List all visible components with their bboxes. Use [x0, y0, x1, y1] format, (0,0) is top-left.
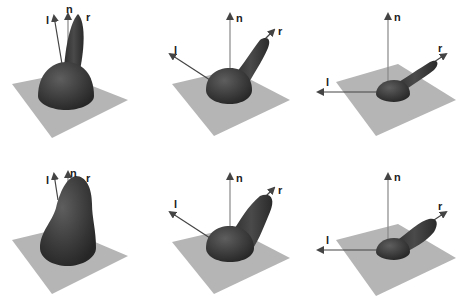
- panel-top-2: l n r: [152, 0, 306, 152]
- label-l: l: [174, 44, 177, 56]
- combined-lobe: [40, 176, 96, 266]
- brdf-lobe-diagram: l n r: [306, 152, 460, 304]
- label-l: l: [46, 14, 49, 26]
- reflect-vector-arrow: [434, 212, 446, 220]
- brdf-lobe-diagram: l n r: [152, 0, 306, 152]
- diffuse-lobe: [38, 62, 94, 110]
- light-vector-arrow: [54, 16, 62, 64]
- specular-lobe: [64, 14, 84, 70]
- panel-bottom-3: l n r: [306, 152, 460, 304]
- label-n: n: [236, 12, 243, 24]
- panel-top-1: l n r: [0, 0, 154, 152]
- label-r: r: [278, 184, 283, 196]
- label-r: r: [278, 25, 283, 37]
- light-vector-arrow: [170, 212, 210, 238]
- panel-top-3: l n r: [306, 0, 460, 152]
- label-n: n: [394, 171, 401, 183]
- label-l: l: [46, 174, 49, 186]
- label-n: n: [236, 172, 243, 184]
- label-r: r: [86, 11, 91, 23]
- light-vector-arrow: [170, 54, 210, 80]
- label-n: n: [66, 3, 73, 15]
- light-vector-arrow: [54, 174, 58, 200]
- brdf-lobe-diagram: l n r: [0, 152, 154, 304]
- brdf-lobe-diagram: l n r: [306, 0, 460, 152]
- label-r: r: [86, 172, 91, 184]
- diffuse-lobe: [206, 68, 252, 104]
- label-r: r: [438, 200, 443, 212]
- surface-plane: [336, 224, 456, 296]
- label-l: l: [326, 76, 329, 88]
- reflect-vector-arrow: [266, 188, 274, 196]
- label-n: n: [70, 167, 77, 179]
- brdf-lobe-diagram: l n r: [0, 0, 154, 152]
- label-n: n: [394, 11, 401, 23]
- reflect-vector-arrow: [434, 54, 446, 62]
- label-r: r: [438, 42, 443, 54]
- brdf-lobe-diagram: l n r: [152, 152, 306, 304]
- label-l: l: [326, 234, 329, 246]
- panel-bottom-2: l n r: [152, 152, 306, 304]
- label-l: l: [174, 198, 177, 210]
- panel-bottom-1: l n r: [0, 152, 154, 304]
